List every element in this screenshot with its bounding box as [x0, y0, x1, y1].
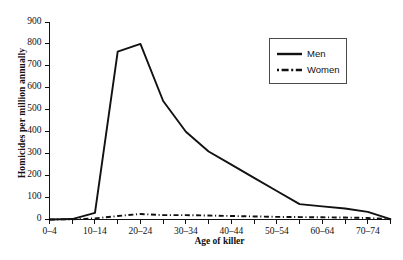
x-tick-label: 30–34 — [164, 226, 208, 236]
y-tick-label: 400 — [0, 125, 42, 135]
x-tick-label: 60–64 — [300, 226, 344, 236]
legend-swatch-women — [277, 65, 302, 75]
legend-label-women: Women — [307, 65, 340, 75]
y-tick-label: 300 — [0, 147, 42, 157]
y-tick-label: 900 — [0, 16, 42, 26]
x-tick-label: 0–4 — [28, 226, 72, 236]
series-line-women — [50, 214, 391, 219]
y-tick-label: 0 — [0, 213, 42, 223]
legend-item-men: Men — [277, 47, 325, 61]
y-tick-label: 500 — [0, 103, 42, 113]
chart-container: Homicides per million annually Age of ki… — [0, 0, 403, 260]
y-tick-label: 600 — [0, 81, 42, 91]
y-tick-label: 100 — [0, 191, 42, 201]
y-tick-label: 200 — [0, 169, 42, 179]
y-tick-label: 800 — [0, 37, 42, 47]
y-axis-ticks — [45, 22, 50, 220]
x-tick-label: 50–54 — [255, 226, 299, 236]
chart-legend: Men Women — [269, 38, 347, 84]
y-tick-label: 700 — [0, 59, 42, 69]
legend-swatch-men — [277, 49, 302, 59]
x-tick-label: 20–24 — [118, 226, 162, 236]
x-axis-ticks — [50, 220, 391, 225]
x-tick-label: 40–44 — [209, 226, 253, 236]
legend-label-men: Men — [307, 49, 325, 59]
legend-item-women: Women — [277, 63, 340, 77]
x-tick-label: 10–14 — [73, 226, 117, 236]
x-tick-label: 70–74 — [346, 226, 390, 236]
